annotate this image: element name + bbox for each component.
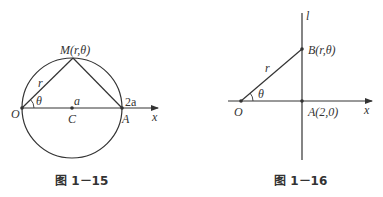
point-A [300,99,304,103]
label-O: O [11,107,20,121]
label-x: x [151,110,158,124]
label-r: r [38,76,43,90]
label-theta: θ [36,94,42,108]
angle-arc [31,100,35,109]
point-A [120,106,124,110]
label-C: C [68,112,77,126]
label-A: A(2,0) [307,105,338,119]
label-A: A [121,112,130,126]
label-B: B(r,θ) [308,43,336,57]
label-M: M(r,θ) [59,43,90,57]
diagram-canvas: M(r,θ) r θ O a C 2a A x 图 1－15 l B(r,θ) … [0,0,383,197]
point-B [300,47,304,51]
figure-caption: 图 1－15 [55,174,108,188]
label-2a: 2a [125,95,137,109]
label-r: r [265,61,270,75]
figure-1-15: M(r,θ) r θ O a C 2a A x 图 1－15 [11,43,158,188]
figure-caption: 图 1－16 [274,174,327,188]
label-a: a [74,94,80,108]
angle-arc [250,93,253,101]
label-x: x [363,103,370,117]
label-O: O [234,105,243,119]
segment-OM [22,58,73,108]
figure-1-16: l B(r,θ) r θ O A(2,0) x 图 1－16 [228,9,372,188]
point-O [239,99,243,103]
segment-OB [241,49,302,101]
label-l: l [306,9,310,23]
label-theta: θ [258,87,264,101]
point-O [20,106,24,110]
